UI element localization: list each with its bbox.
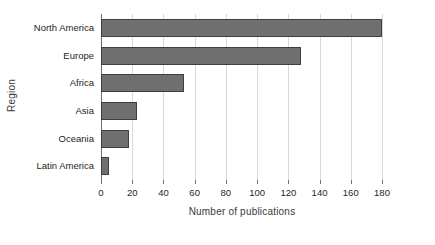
x-axis-title: Number of publications (101, 206, 383, 217)
x-tick-label: 100 (249, 186, 265, 199)
x-tick-mark-100 (257, 180, 258, 184)
y-tick-label: North America (34, 22, 94, 34)
x-tick-label: 80 (221, 186, 232, 199)
y-axis-title-text: Region (6, 79, 17, 112)
y-tick-label: Asia (76, 105, 94, 117)
plot-area (101, 14, 382, 180)
x-tick-label: 0 (98, 186, 103, 199)
x-tick-mark-80 (226, 180, 227, 184)
x-tick-mark-120 (288, 180, 289, 184)
bar (101, 157, 109, 175)
x-tick-mark-0 (101, 180, 102, 184)
bar (101, 47, 301, 65)
x-tick-mark-180 (382, 180, 383, 184)
gridline-180 (382, 14, 383, 180)
bars-layer (101, 14, 382, 180)
x-tick-mark-160 (351, 180, 352, 184)
x-tick-mark-140 (320, 180, 321, 184)
bar (101, 130, 129, 148)
y-tick-label: Latin America (36, 160, 94, 172)
bar (101, 19, 382, 37)
bar (101, 74, 184, 92)
x-tick-label: 180 (374, 186, 390, 199)
x-tick-mark-60 (195, 180, 196, 184)
y-tick-label: Oceania (59, 133, 94, 145)
x-axis-tick-labels: 020406080100120140160180 (101, 186, 383, 200)
x-tick-label: 120 (280, 186, 296, 199)
x-tick-mark-40 (163, 180, 164, 184)
x-tick-mark-20 (132, 180, 133, 184)
y-axis-title: Region (0, 0, 22, 190)
bar-chart: Region North AmericaEuropeAfricaAsiaOcea… (0, 0, 435, 245)
bar (101, 102, 137, 120)
x-tick-label: 20 (127, 186, 138, 199)
x-tick-label: 160 (343, 186, 359, 199)
y-axis-tick-labels: North AmericaEuropeAfricaAsiaOceaniaLati… (20, 14, 98, 180)
x-tick-label: 40 (158, 186, 169, 199)
x-tick-label: 140 (312, 186, 328, 199)
y-tick-label: Africa (70, 77, 94, 89)
x-tick-label: 60 (189, 186, 200, 199)
y-tick-label: Europe (63, 50, 94, 62)
